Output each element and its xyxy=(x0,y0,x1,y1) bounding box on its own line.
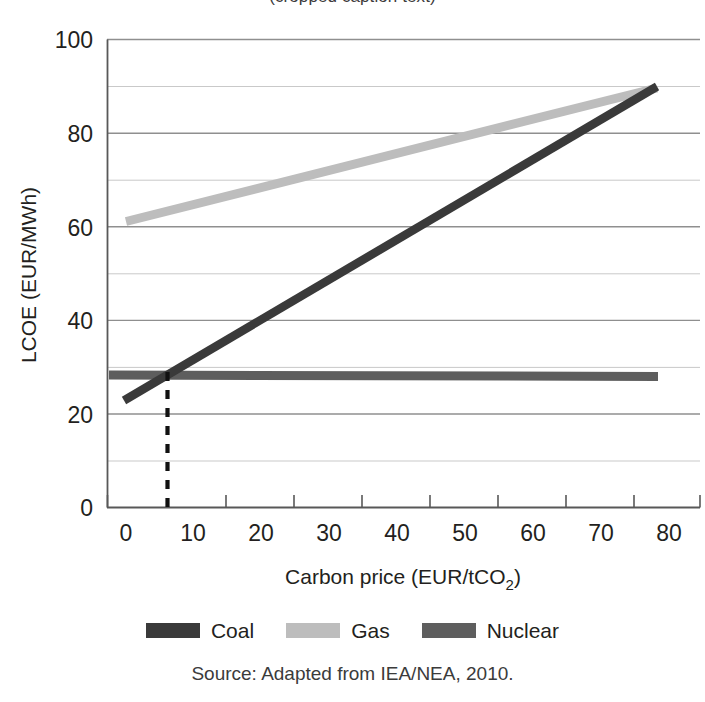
x-tick-70: 70 xyxy=(588,520,614,546)
x-tick-10: 10 xyxy=(180,520,206,546)
legend-swatch-nuclear xyxy=(422,623,476,638)
x-axis-ticks xyxy=(108,495,701,508)
legend-label-gas: Gas xyxy=(351,620,390,641)
series-line-gas xyxy=(126,88,657,222)
y-tick-60: 60 xyxy=(67,215,93,241)
legend-label-nuclear: Nuclear xyxy=(487,620,559,641)
y-tick-20: 20 xyxy=(67,402,93,428)
x-tick-0: 0 xyxy=(120,520,133,546)
y-tick-labels: 100 80 60 40 20 0 xyxy=(55,27,93,521)
x-axis-title-tail: ) xyxy=(514,565,521,588)
x-tick-50: 50 xyxy=(452,520,478,546)
legend-swatch-coal xyxy=(146,623,200,638)
legend-item-gas[interactable]: Gas xyxy=(286,620,390,641)
y-tick-40: 40 xyxy=(67,308,93,334)
y-tick-80: 80 xyxy=(67,121,93,147)
y-tick-0: 0 xyxy=(80,495,93,521)
x-axis-title-subscript: 2 xyxy=(506,576,514,593)
chart-legend: Coal Gas Nuclear xyxy=(0,620,705,641)
grid-minor xyxy=(107,87,700,462)
y-axis-title: LCOE (EUR/MWh) xyxy=(17,187,40,363)
x-tick-80: 80 xyxy=(656,520,682,546)
source-note: Source: Adapted from IEA/NEA, 2010. xyxy=(0,663,705,685)
y-tick-100: 100 xyxy=(55,27,93,53)
svg-text:Carbon price (EUR/tCO2): Carbon price (EUR/tCO2) xyxy=(285,565,521,593)
chart-plot: 100 80 60 40 20 0 0 10 20 30 40 50 60 70… xyxy=(0,0,705,600)
legend-item-coal[interactable]: Coal xyxy=(146,620,254,641)
series-line-nuclear xyxy=(109,375,658,377)
x-tick-30: 30 xyxy=(316,520,342,546)
x-tick-20: 20 xyxy=(248,520,274,546)
x-tick-40: 40 xyxy=(384,520,410,546)
figure-container: (cropped caption text) xyxy=(0,0,705,702)
x-tick-60: 60 xyxy=(520,520,546,546)
legend-item-nuclear[interactable]: Nuclear xyxy=(422,620,559,641)
legend-swatch-gas xyxy=(286,623,340,638)
x-axis-title: Carbon price (EUR/tCO2) xyxy=(285,565,521,593)
x-axis-title-main: Carbon price (EUR/tCO xyxy=(285,565,506,588)
legend-label-coal: Coal xyxy=(211,620,254,641)
x-tick-labels: 0 10 20 30 40 50 60 70 80 xyxy=(120,520,682,546)
